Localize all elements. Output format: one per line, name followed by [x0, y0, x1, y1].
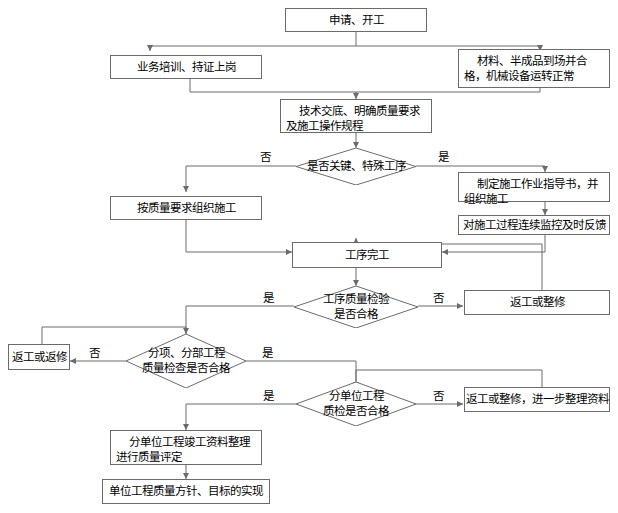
decision-process-quality[interactable]: 工序质量检验 是否合格 — [294, 286, 418, 328]
edge-label-sub-division-no: 否 — [88, 347, 101, 360]
node-final-goal[interactable]: 单位工程质量方针、目标的实现 — [102, 479, 270, 504]
node-apply-start-label: 申请、开工 — [329, 13, 384, 28]
edge-label-sub-unit-no: 否 — [432, 390, 445, 403]
node-materials[interactable]: 材料、半成品到场并合格，机械设备运转正常 — [458, 49, 610, 88]
node-final-goal-label: 单位工程质量方针、目标的实现 — [109, 484, 263, 499]
decision-key-process[interactable]: 是否关键、特殊工序 — [296, 148, 416, 185]
edge-label-process-quality-yes: 是 — [262, 292, 275, 305]
flowchart-canvas: 申请、开工 业务培训、持证上岗 材料、半成品到场并合格，机械设备运转正常 技术交… — [0, 0, 618, 513]
node-org-by-quality-label: 按质量要求组织施工 — [137, 201, 236, 216]
node-rework-redo-label: 返工或返修 — [12, 350, 67, 365]
node-work-instruction-label: 制定施工作业指导书，并组织施工 — [464, 177, 598, 206]
edge-label-sub-unit-yes: 是 — [262, 390, 275, 403]
node-materials-label: 材料、半成品到场并合格，机械设备运转正常 — [464, 54, 587, 83]
decision-sub-division-label: 分项、分部工程 质量检查是否合格 — [126, 334, 246, 388]
node-tech-disclosure[interactable]: 技术交底、明确质量要求及施工操作规程 — [280, 99, 432, 133]
node-apply-start[interactable]: 申请、开工 — [285, 8, 427, 32]
node-process-complete-label: 工序完工 — [345, 248, 389, 263]
node-continuous-monitor[interactable]: 对施工过程连续监控及时反馈 — [458, 215, 610, 235]
decision-sub-unit[interactable]: 分单位工程 质检是否合格 — [296, 382, 416, 426]
edge-label-key-yes: 是 — [437, 151, 450, 164]
edge-label-key-no: 否 — [259, 151, 272, 164]
node-continuous-monitor-label: 对施工过程连续监控及时反馈 — [463, 218, 606, 233]
edge-label-process-quality-no: 否 — [432, 292, 445, 305]
node-rework-redo[interactable]: 返工或返修 — [8, 344, 70, 370]
node-tech-disclosure-label: 技术交底、明确质量要求及施工操作规程 — [286, 104, 420, 133]
node-completion-data[interactable]: 分单位工程竣工资料整理进行质量评定 — [110, 430, 262, 465]
edge-label-sub-division-yes: 是 — [261, 347, 274, 360]
node-process-complete[interactable]: 工序完工 — [292, 242, 442, 268]
decision-key-process-label: 是否关键、特殊工序 — [296, 148, 416, 185]
node-rework-repair-1[interactable]: 返工或整修 — [464, 290, 610, 315]
node-completion-data-label: 分单位工程竣工资料整理进行质量评定 — [116, 435, 250, 464]
node-rework-repair-2[interactable]: 返工或整修，进一步整理资料 — [464, 387, 610, 412]
node-org-by-quality[interactable]: 按质量要求组织施工 — [110, 196, 262, 220]
node-rework-repair-2-label: 返工或整修，进一步整理资料 — [466, 392, 609, 407]
decision-process-quality-label: 工序质量检验 是否合格 — [294, 286, 418, 328]
decision-sub-unit-label: 分单位工程 质检是否合格 — [296, 382, 416, 426]
decision-sub-division[interactable]: 分项、分部工程 质量检查是否合格 — [126, 334, 246, 388]
node-rework-repair-1-label: 返工或整修 — [510, 295, 565, 310]
node-training[interactable]: 业务培训、持证上岗 — [110, 55, 262, 79]
node-training-label: 业务培训、持证上岗 — [137, 60, 236, 75]
node-work-instruction[interactable]: 制定施工作业指导书，并组织施工 — [458, 172, 610, 202]
